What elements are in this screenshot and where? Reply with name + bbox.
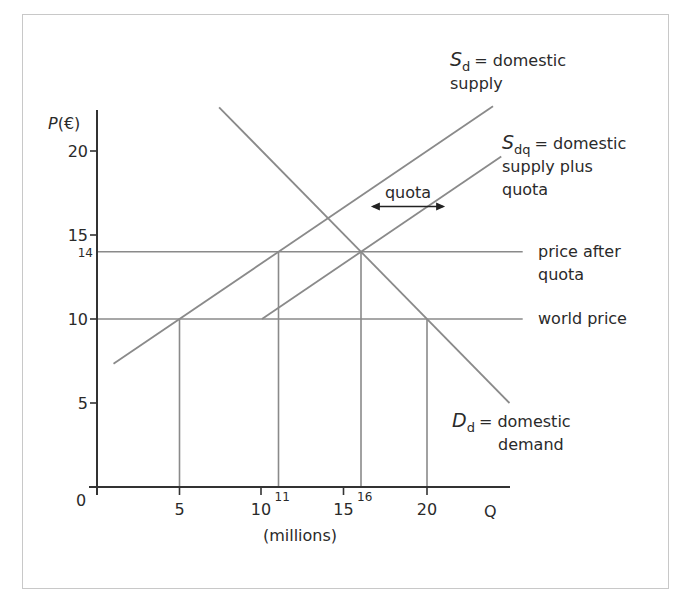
x-axis-label: Q — [484, 502, 497, 521]
hline-label-price-after-quota: price after — [538, 242, 621, 261]
curve-s-d — [114, 106, 494, 364]
quota-diagram: price afterquotaworld price Sd= domestic… — [0, 0, 684, 616]
curve-symbol: D — [452, 409, 467, 431]
curve-subscript: d — [462, 59, 470, 74]
curve-label-line2-d-d: demand — [498, 435, 564, 454]
curve-label-line2-s-dq: supply plus — [502, 157, 593, 176]
x-tick-label-15: 15 — [333, 500, 353, 519]
curve-label-s-d: Sd= domestic — [450, 48, 566, 74]
y-tick-label-5: 5 — [78, 394, 88, 413]
x-tick-label-10: 10 — [251, 500, 271, 519]
x-tick-label-5: 5 — [174, 500, 184, 519]
axes — [89, 110, 510, 495]
x-minor-label-16: 16 — [357, 490, 372, 504]
curve-d-d — [219, 107, 509, 403]
quota-label: quota — [385, 183, 431, 202]
x-axis-units-label: (millions) — [263, 526, 337, 545]
x-tick-label-20: 20 — [417, 500, 437, 519]
labels: P(€) 0 Q (millions) — [48, 114, 497, 545]
y-tick-label-15: 15 — [68, 226, 88, 245]
y-tick-label-20: 20 — [68, 142, 88, 161]
ticks: 51015201451015201116 — [68, 142, 438, 519]
curve-description: = domestic — [479, 412, 571, 431]
curve-symbol: S — [502, 131, 514, 153]
y-minor-label-14: 14 — [78, 246, 93, 260]
curve-label-line2-s-d: supply — [450, 74, 503, 93]
curve-description: = domestic — [474, 51, 566, 70]
y-axis-label: P(€) — [48, 114, 80, 133]
curve-subscript: dq — [514, 142, 531, 157]
curve-description: = domestic — [535, 134, 627, 153]
hline-label2-price-after-quota: quota — [538, 265, 584, 284]
hline-label-world-price: world price — [538, 309, 627, 328]
curve-subscript: d — [467, 420, 475, 435]
curve-label-s-dq: Sdq= domestic — [502, 131, 626, 157]
curve-label-line3-s-dq: quota — [502, 180, 548, 199]
origin-label: 0 — [76, 491, 86, 510]
quota-arrow-head-left — [371, 202, 380, 210]
y-tick-label-10: 10 — [68, 310, 88, 329]
curve-symbol: S — [450, 48, 462, 70]
annotations: quota — [371, 183, 445, 210]
y-axis-label-unit: (€) — [58, 114, 81, 133]
x-minor-label-11: 11 — [275, 490, 290, 504]
curve-label-d-d: Dd= domestic — [452, 409, 571, 435]
y-axis-label-p: P — [48, 114, 58, 133]
quota-arrow-head-right — [436, 202, 445, 210]
